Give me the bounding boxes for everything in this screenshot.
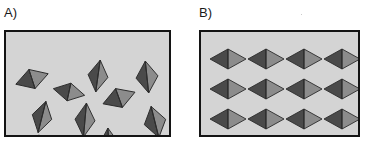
bipyramid-diamond xyxy=(13,64,52,94)
shape-light-half xyxy=(228,109,246,129)
bipyramid-diamond xyxy=(286,109,322,129)
bipyramid-diamond xyxy=(28,99,55,135)
bipyramid-diamond xyxy=(140,104,169,135)
bipyramid-diamond xyxy=(134,60,159,94)
shape-light-half xyxy=(342,79,358,99)
bipyramid-diamond xyxy=(210,109,246,129)
bipyramid-diamond xyxy=(74,102,97,135)
shape-dark-half xyxy=(286,109,304,129)
shape-dark-half xyxy=(210,49,228,69)
bipyramid-diamond xyxy=(324,109,358,129)
shape-light-half xyxy=(304,109,322,129)
shape-dark-half xyxy=(286,49,304,69)
shape-light-half xyxy=(342,109,358,129)
bipyramid-diamond xyxy=(324,49,358,69)
figure-root: A) B) xyxy=(0,0,368,145)
bipyramid-diamond xyxy=(248,79,284,99)
shape-dark-half xyxy=(324,109,342,129)
shape-dark-half xyxy=(210,79,228,99)
bipyramid-diamond xyxy=(98,127,120,135)
bipyramid-diamond xyxy=(324,79,358,99)
shape-dark-half xyxy=(17,131,39,135)
bipyramid-diamond xyxy=(86,59,110,93)
shape-dark-half xyxy=(248,79,266,99)
bipyramid-diamond xyxy=(17,131,49,135)
shape-dark-half xyxy=(324,79,342,99)
panel-b-label: B) xyxy=(199,6,212,19)
shape-dark-half xyxy=(210,109,228,129)
shape-light-half xyxy=(304,79,322,99)
shape-dark-half xyxy=(248,109,266,129)
shape-light-half xyxy=(228,49,246,69)
bipyramid-diamond xyxy=(248,109,284,129)
shape-light-half xyxy=(266,79,284,99)
shape-light-half xyxy=(266,49,284,69)
panel-b-box xyxy=(199,30,360,137)
shape-light-half xyxy=(108,127,120,135)
panel-a-label: A) xyxy=(4,6,17,19)
background-speck xyxy=(301,14,302,15)
bipyramid-diamond xyxy=(286,49,322,69)
shape-light-half xyxy=(266,109,284,129)
shape-dark-half xyxy=(286,79,304,99)
bipyramid-diamond xyxy=(248,49,284,69)
bipyramid-diamond xyxy=(286,79,322,99)
bipyramid-diamond xyxy=(210,49,246,69)
panel-a-shapes xyxy=(6,32,169,135)
bipyramid-diamond xyxy=(210,79,246,99)
shape-light-half xyxy=(228,79,246,99)
panel-b-shapes xyxy=(201,32,358,135)
shape-dark-half xyxy=(248,49,266,69)
shape-light-half xyxy=(304,49,322,69)
shape-light-half xyxy=(342,49,358,69)
panel-a-box xyxy=(4,30,171,137)
bipyramid-diamond xyxy=(100,83,139,113)
shape-dark-half xyxy=(324,49,342,69)
bipyramid-diamond xyxy=(51,80,86,104)
